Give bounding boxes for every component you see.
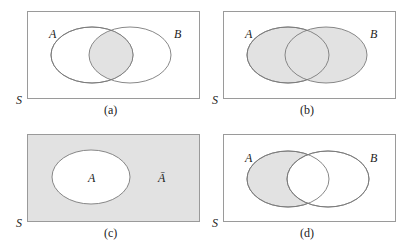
venn-panel-b: A B S (b) — [212, 12, 396, 118]
venn-panel-a: A B S (a) — [16, 12, 200, 118]
set-b-ellipse — [285, 27, 367, 83]
complement-label: Ā — [157, 171, 166, 185]
universal-set-label: S — [212, 93, 218, 107]
set-a-label: A — [244, 27, 253, 41]
set-b-label: B — [174, 27, 182, 41]
set-b-label: B — [370, 27, 378, 41]
universal-set-label: S — [16, 93, 22, 107]
universal-set-label: S — [212, 216, 218, 230]
venn-panel-c: A Ā S (c) — [16, 135, 200, 241]
set-b-label: B — [370, 151, 378, 165]
panel-caption: (a) — [104, 103, 117, 117]
set-a-label: A — [48, 27, 57, 41]
panel-caption: (d) — [300, 226, 314, 240]
panel-caption: (c) — [104, 226, 117, 240]
panel-caption: (b) — [300, 103, 314, 117]
set-a-label: A — [244, 151, 253, 165]
set-a-label: A — [87, 171, 96, 185]
venn-panel-d: A B S (d) — [212, 135, 396, 241]
universal-set-label: S — [16, 216, 22, 230]
